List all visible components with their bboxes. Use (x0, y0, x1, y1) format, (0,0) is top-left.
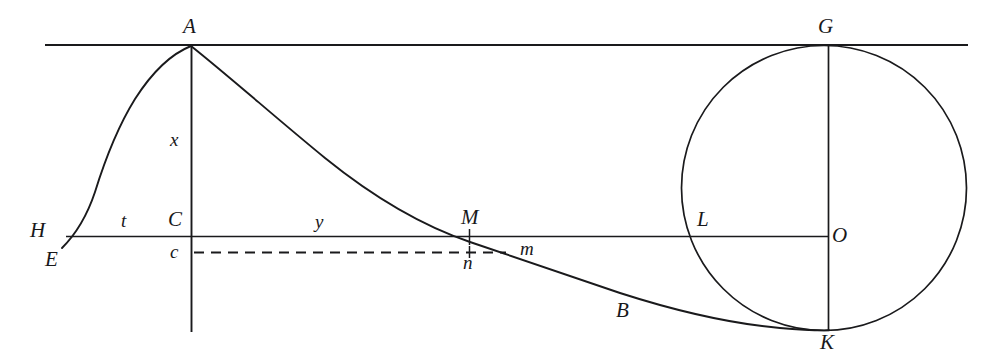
label-point-o: O (832, 225, 847, 246)
label-point-b: B (616, 300, 629, 321)
label-point-g: G (818, 16, 833, 37)
curve-right-branch-ak (191, 46, 829, 330)
diagram-canvas (0, 0, 1003, 364)
tangent-circle (682, 46, 967, 331)
label-point-c-lower: c (170, 242, 178, 261)
label-point-k: K (820, 332, 834, 353)
label-point-c: C (168, 209, 182, 230)
label-point-m-lower: m (520, 239, 534, 258)
label-point-h: H (30, 220, 45, 241)
label-point-n: n (463, 253, 473, 272)
label-point-m-upper: M (461, 207, 479, 228)
label-variable-y: y (315, 212, 323, 231)
geometric-diagram: A G x t C y M L O H c m n E B K (0, 0, 1003, 364)
label-variable-x: x (170, 130, 178, 149)
label-point-l: L (697, 209, 709, 230)
label-point-e: E (45, 249, 58, 270)
label-variable-t: t (121, 211, 126, 230)
label-point-a: A (183, 16, 196, 37)
